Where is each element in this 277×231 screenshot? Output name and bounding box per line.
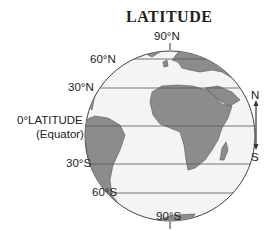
label-equator: 0°LATITUDE (17, 114, 83, 127)
label-equator-sub: (Equator) (36, 128, 84, 141)
label-90s: 90°S (156, 210, 181, 223)
label-90n: 90°N (154, 30, 180, 43)
compass-south-label: S (251, 151, 259, 164)
label-30n: 30°N (68, 81, 94, 94)
label-60s: 60°S (92, 186, 117, 199)
label-30s: 30°S (66, 157, 91, 170)
label-60n: 60°N (90, 53, 116, 66)
compass-north-label: N (251, 89, 259, 102)
